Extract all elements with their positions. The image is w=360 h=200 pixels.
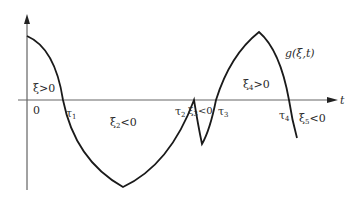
region5-label: ξ5<0 xyxy=(299,113,326,126)
t-axis-label: t xyxy=(340,95,344,106)
tau2-label: τ2 xyxy=(175,106,186,119)
origin-label: 0 xyxy=(33,105,40,116)
diagram-canvas xyxy=(0,0,360,200)
region2-label: ξ2<0 xyxy=(110,117,137,130)
tau1-label: τ1 xyxy=(66,108,77,121)
t-axis-arrow-icon xyxy=(327,97,338,103)
diagram: t 0 g(ξ,t) τ1 τ2 τ3 τ4 ξ>0 ξ2<0 ξ3<0 ξ4>… xyxy=(0,0,360,200)
tau4-label: τ4 xyxy=(279,110,290,123)
region1-label: ξ>0 xyxy=(33,83,55,94)
curve-label: g(ξ,t) xyxy=(285,48,315,59)
region3-label: ξ3<0 xyxy=(188,106,213,118)
y-axis-arrow-icon xyxy=(24,14,30,24)
region4-label: ξ4>0 xyxy=(243,79,270,92)
tau3-label: τ3 xyxy=(218,106,229,119)
